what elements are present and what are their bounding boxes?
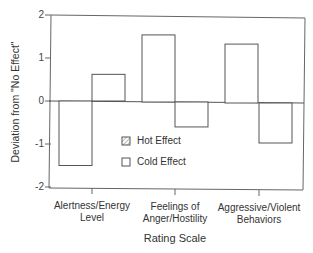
y-tick-label: 0 <box>30 95 44 106</box>
y-tick-label: 2 <box>30 9 44 20</box>
x-category-label: Aggressive/Violent Behaviors <box>204 202 313 226</box>
cold-effect-bar <box>259 103 292 143</box>
legend-label-hot: Hot Effect <box>137 135 181 147</box>
hot-effect-bar <box>59 101 92 166</box>
hot-effect-bar <box>142 35 175 102</box>
y-axis-label: Deviation from "No Effect" <box>9 37 21 167</box>
y-tick-label: -2 <box>30 181 44 192</box>
hot-effect-bar <box>225 44 258 103</box>
cold-effect-bar <box>175 102 208 127</box>
legend-swatch-cold <box>122 158 130 166</box>
x-axis-label: Rating Scale <box>125 232 225 244</box>
cold-effect-bar <box>92 74 125 101</box>
y-tick-label: 1 <box>30 52 44 63</box>
legend-label-cold: Cold Effect <box>137 156 186 168</box>
legend-swatch-hot <box>122 137 130 145</box>
y-tick-label: -1 <box>30 138 44 149</box>
